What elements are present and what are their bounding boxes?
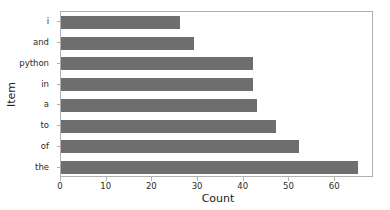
bar-i (61, 16, 180, 29)
bar-and (61, 37, 194, 50)
bar-row (61, 95, 257, 116)
x-tick-mark (243, 177, 244, 181)
bar-python (61, 57, 253, 70)
x-tick-label-30: 30 (192, 182, 203, 191)
x-tick-mark (334, 177, 335, 181)
bar-row (61, 54, 253, 75)
x-tick-label-10: 10 (100, 182, 111, 191)
bar-row (61, 137, 299, 158)
y-tick-labels: iandpythoninatoofthe (0, 11, 55, 177)
bar-row (61, 33, 194, 54)
x-axis-title: Count (0, 193, 390, 204)
x-tick-label-20: 20 (146, 182, 157, 191)
x-tick-mark (151, 177, 152, 181)
x-tick-label-50: 50 (283, 182, 294, 191)
x-tick-label-40: 40 (237, 182, 248, 191)
bar-row (61, 12, 180, 33)
bar-row (61, 74, 253, 95)
bar-a (61, 99, 257, 112)
y-tick-label-to: to (0, 121, 49, 130)
y-tick-label-the: the (0, 162, 49, 171)
x-tick-label-0: 0 (57, 182, 62, 191)
plot-area (60, 11, 373, 177)
bar-row (61, 157, 358, 177)
y-tick-label-python: python (0, 59, 49, 68)
y-tick-label-i: i (0, 17, 49, 26)
bar-of (61, 140, 299, 153)
bar-row (61, 116, 276, 137)
x-tick-label-60: 60 (329, 182, 340, 191)
bar-chart-figure: Item iandpythoninatoofthe 0102030405060 … (0, 0, 390, 210)
y-tick-label-of: of (0, 142, 49, 151)
bar-to (61, 120, 276, 133)
x-tick-mark (60, 177, 61, 181)
y-tick-label-and: and (0, 38, 49, 47)
x-tick-mark (288, 177, 289, 181)
x-axis-title-text: Count (202, 193, 235, 204)
x-tick-mark (197, 177, 198, 181)
y-tick-label-a: a (0, 100, 49, 109)
bar-in (61, 78, 253, 91)
x-tick-mark (106, 177, 107, 181)
y-tick-label-in: in (0, 79, 49, 88)
bar-the (61, 161, 358, 174)
